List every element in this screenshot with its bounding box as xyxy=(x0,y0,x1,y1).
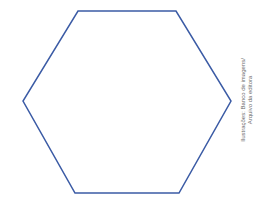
image-credit-line-1: Ilustrações: Banco de imagens/ xyxy=(240,58,247,142)
hexagon-canvas xyxy=(0,0,272,205)
hexagon-shape xyxy=(23,11,231,193)
image-credit: Ilustrações: Banco de imagens/ Arquivo d… xyxy=(240,58,254,142)
hexagon-figure xyxy=(0,0,272,205)
image-credit-line-2: Arquivo da editora xyxy=(247,58,254,142)
